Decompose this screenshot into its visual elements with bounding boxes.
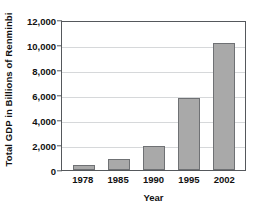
bar-slot <box>136 22 171 170</box>
bar-slot <box>206 22 241 170</box>
bar[interactable] <box>73 165 95 170</box>
x-tick-label: 1995 <box>171 174 206 188</box>
plot-area <box>61 21 246 171</box>
bar-chart-figure: Total GDP in Billions of Renminbi 02,000… <box>0 0 272 220</box>
y-tickmark <box>57 45 62 46</box>
bar[interactable] <box>143 146 165 170</box>
bar-slot <box>66 22 101 170</box>
y-tick-label: 0 <box>51 166 56 177</box>
y-tickmark <box>57 20 62 21</box>
x-tick-label: 1985 <box>100 174 135 188</box>
x-tick-label: 2002 <box>207 174 242 188</box>
y-tickmark <box>57 70 62 71</box>
y-tickmark <box>57 145 62 146</box>
y-tick-label: 12,000 <box>27 16 56 27</box>
y-tick-label: 8,000 <box>32 66 56 77</box>
y-tick-label: 2,000 <box>32 141 56 152</box>
y-tick-label: 6,000 <box>32 91 56 102</box>
bars-group <box>62 22 245 170</box>
x-tick-label: 1990 <box>136 174 171 188</box>
x-tick-label: 1978 <box>65 174 100 188</box>
y-tickmark <box>57 170 62 171</box>
bar-slot <box>171 22 206 170</box>
y-tick-label: 10,000 <box>27 41 56 52</box>
bar-slot <box>101 22 136 170</box>
y-tickmark <box>57 95 62 96</box>
bar[interactable] <box>108 159 130 170</box>
bar[interactable] <box>178 98 200 171</box>
y-tickmark <box>57 120 62 121</box>
y-tick-label: 4,000 <box>32 116 56 127</box>
y-axis-tick-labels: 02,0004,0006,0008,00010,00012,000 <box>16 21 60 171</box>
x-axis-tick-labels: 19781985199019952002 <box>61 174 246 188</box>
bar[interactable] <box>213 43 235 171</box>
y-axis-title-text: Total GDP in Billions of Renminbi <box>4 12 15 166</box>
x-axis-title: Year <box>61 192 246 203</box>
